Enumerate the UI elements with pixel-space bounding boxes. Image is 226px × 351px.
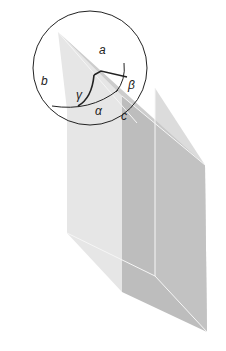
label-a: a: [99, 43, 106, 57]
label-b: b: [41, 74, 48, 88]
left-face: [58, 32, 122, 292]
label-gamma: γ: [76, 88, 83, 102]
label-beta: β: [127, 78, 135, 92]
label-c: c: [121, 109, 127, 123]
label-alpha: α: [95, 104, 103, 118]
prism-diagram: a b c α β γ: [0, 0, 226, 351]
